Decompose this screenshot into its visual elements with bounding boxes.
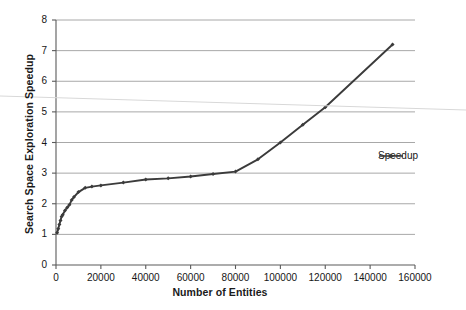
legend-diamond-marker	[388, 153, 393, 158]
x-axis-tick-label: 140000	[353, 273, 386, 283]
y-axis-title: Search Space Exploration Speedup	[23, 19, 35, 269]
chart-figure: 012345678 020000400006000080000100000120…	[0, 0, 466, 310]
x-axis-tick-label: 100000	[264, 273, 297, 283]
x-axis-tick-label: 20000	[87, 273, 115, 283]
x-axis-tick-label: 120000	[309, 273, 342, 283]
legend-line-marker-icon	[378, 150, 404, 162]
x-axis-tick-label: 40000	[132, 273, 160, 283]
x-axis-tick-label: 0	[53, 273, 59, 283]
x-axis-title: Number of Entities	[0, 286, 440, 298]
x-axis-tick-label: 60000	[177, 273, 205, 283]
x-axis-tick-label: 160000	[398, 273, 431, 283]
x-axis-tick-label: 80000	[222, 273, 250, 283]
chart-legend: Speedup	[378, 150, 418, 161]
